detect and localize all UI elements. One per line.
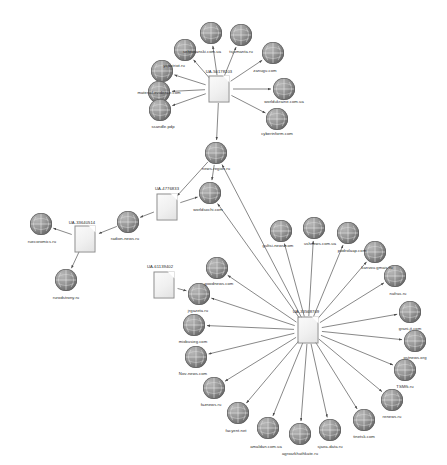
website-globe-node[interactable] bbox=[266, 108, 288, 130]
website-globe-node[interactable] bbox=[55, 269, 77, 291]
ua-tracking-id-label: UA-33640514 bbox=[69, 220, 95, 225]
website-globe-node[interactable] bbox=[394, 359, 416, 381]
globe-icon[interactable] bbox=[273, 78, 295, 100]
graph-edge bbox=[284, 244, 304, 317]
graph-edge bbox=[172, 94, 206, 106]
ua-tracking-id-document-node[interactable] bbox=[209, 76, 230, 103]
globe-icon[interactable] bbox=[200, 22, 222, 44]
document-icon[interactable] bbox=[75, 226, 96, 253]
website-domain-label: ruecoromics.ru bbox=[28, 239, 56, 244]
graph-edge bbox=[246, 341, 299, 403]
website-domain-label: grani-jt.com bbox=[399, 326, 421, 331]
globe-icon[interactable] bbox=[257, 417, 279, 439]
website-globe-node[interactable] bbox=[404, 330, 426, 352]
website-globe-node[interactable] bbox=[205, 142, 227, 164]
globe-icon[interactable] bbox=[262, 42, 284, 64]
globe-icon[interactable] bbox=[270, 220, 292, 242]
graph-edge bbox=[320, 283, 384, 323]
website-domain-label: zanugu.com bbox=[253, 68, 276, 73]
website-domain-label: ostnews.org bbox=[403, 355, 426, 360]
graph-edge bbox=[71, 252, 79, 269]
globe-icon[interactable] bbox=[30, 213, 52, 235]
website-domain-label: cyberinform.com bbox=[261, 131, 293, 136]
website-globe-node[interactable] bbox=[262, 42, 284, 64]
website-globe-node[interactable] bbox=[399, 301, 421, 323]
graph-edge bbox=[319, 339, 382, 392]
ua-tracking-id-document-node[interactable] bbox=[157, 194, 178, 221]
globe-icon[interactable] bbox=[404, 330, 426, 352]
globe-icon[interactable] bbox=[381, 389, 403, 411]
website-globe-node[interactable] bbox=[337, 222, 359, 244]
website-globe-node[interactable] bbox=[183, 314, 205, 336]
website-globe-node[interactable] bbox=[273, 78, 295, 100]
website-globe-node[interactable] bbox=[303, 217, 325, 239]
page-fold-icon bbox=[171, 194, 178, 201]
graph-edge bbox=[174, 75, 205, 85]
graph-edge bbox=[301, 344, 307, 421]
website-globe-node[interactable] bbox=[289, 423, 311, 445]
website-globe-node[interactable] bbox=[206, 257, 228, 279]
website-domain-label: tsjumanta.ru bbox=[229, 49, 253, 54]
website-domain-label: radion-news.ru bbox=[111, 236, 139, 241]
globe-icon[interactable] bbox=[303, 217, 325, 239]
website-globe-node[interactable] bbox=[188, 283, 210, 305]
document-icon[interactable] bbox=[154, 272, 175, 299]
graph-edge bbox=[273, 343, 303, 416]
document-icon[interactable] bbox=[157, 194, 178, 221]
page-fold-icon bbox=[89, 226, 96, 233]
website-globe-node[interactable] bbox=[230, 24, 252, 46]
ua-tracking-id-document-node[interactable] bbox=[154, 272, 175, 299]
globe-icon[interactable] bbox=[399, 301, 421, 323]
website-globe-node[interactable] bbox=[353, 409, 375, 431]
website-globe-node[interactable] bbox=[185, 346, 207, 368]
globe-icon[interactable] bbox=[289, 423, 311, 445]
website-globe-node[interactable] bbox=[30, 213, 52, 235]
website-globe-node[interactable] bbox=[200, 22, 222, 44]
globe-icon[interactable] bbox=[337, 222, 359, 244]
website-domain-label: tinetsk.com bbox=[353, 434, 375, 439]
website-globe-node[interactable] bbox=[203, 377, 225, 399]
website-globe-node[interactable] bbox=[364, 241, 386, 263]
globe-icon[interactable] bbox=[188, 283, 210, 305]
website-globe-node[interactable] bbox=[270, 220, 292, 242]
website-domain-label: podrolaap.com bbox=[338, 248, 366, 253]
globe-icon[interactable] bbox=[206, 257, 228, 279]
page-fold-icon bbox=[223, 76, 230, 83]
document-icon[interactable] bbox=[209, 76, 230, 103]
website-globe-node[interactable] bbox=[257, 417, 279, 439]
website-globe-node[interactable] bbox=[319, 419, 341, 441]
graph-edge bbox=[99, 226, 117, 233]
globe-icon[interactable] bbox=[319, 419, 341, 441]
globe-icon[interactable] bbox=[227, 402, 249, 424]
globe-icon[interactable] bbox=[117, 211, 139, 233]
ua-tracking-id-document-node[interactable] bbox=[298, 317, 319, 344]
website-globe-node[interactable] bbox=[149, 99, 171, 121]
document-icon[interactable] bbox=[298, 317, 319, 344]
graph-edge bbox=[207, 326, 294, 330]
globe-icon[interactable] bbox=[199, 182, 221, 204]
globe-icon[interactable] bbox=[55, 269, 77, 291]
globe-icon[interactable] bbox=[230, 24, 252, 46]
ua-tracking-id-document-node[interactable] bbox=[75, 226, 96, 253]
website-globe-node[interactable] bbox=[199, 182, 221, 204]
link-analysis-canvas[interactable]: UA-50178103sehrosanski.com.uatsjumanta.r… bbox=[0, 0, 447, 465]
globe-icon[interactable] bbox=[394, 359, 416, 381]
page-fold-icon bbox=[168, 272, 175, 279]
website-domain-label: Nov-news.com bbox=[179, 371, 207, 376]
graph-edge bbox=[217, 103, 219, 140]
graph-edge bbox=[313, 245, 343, 317]
globe-icon[interactable] bbox=[185, 346, 207, 368]
graph-edge bbox=[321, 335, 393, 365]
globe-icon[interactable] bbox=[266, 108, 288, 130]
globe-icon[interactable] bbox=[149, 99, 171, 121]
website-globe-node[interactable] bbox=[227, 402, 249, 424]
globe-icon[interactable] bbox=[205, 142, 227, 164]
globe-icon[interactable] bbox=[353, 409, 375, 431]
graph-edge bbox=[231, 95, 265, 113]
globe-icon[interactable] bbox=[183, 314, 205, 336]
globe-icon[interactable] bbox=[203, 377, 225, 399]
globe-icon[interactable] bbox=[364, 241, 386, 263]
website-globe-node[interactable] bbox=[381, 389, 403, 411]
website-domain-label: facyent.net bbox=[225, 428, 246, 433]
website-globe-node[interactable] bbox=[117, 211, 139, 233]
